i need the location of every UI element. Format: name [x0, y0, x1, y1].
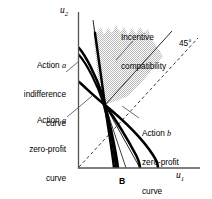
y-axis-label: u2: [60, 5, 68, 17]
action-a-zero-profit-curve-label: Action a zero-profit curve: [2, 97, 66, 199]
point-B-label: B: [119, 176, 125, 186]
annotation-line: zero-profit: [142, 158, 212, 168]
action-b-zero-profit-curve-label: Action b zero-profit curve: [142, 110, 212, 199]
annotation-line: Action b: [142, 129, 212, 139]
annotation-line: curve: [142, 187, 212, 197]
annotation-line: Action a: [2, 116, 66, 126]
annotation-line: curve: [2, 174, 66, 184]
annotation-line: zero-profit: [2, 145, 66, 155]
annotation-line: Action a: [2, 61, 66, 71]
annotation-line: compatibility: [121, 62, 203, 72]
incentive-compatibility-label: Incentive compatibility: [121, 14, 203, 91]
incentive-compatibility-figure: u2 u1 B Action a indifference curve Acti…: [0, 0, 212, 199]
forty-five-degree-label: 45°: [179, 38, 192, 48]
